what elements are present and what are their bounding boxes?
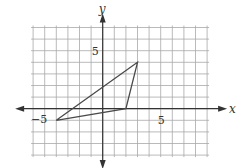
y-tick-label-5: 5 — [92, 45, 99, 58]
y-axis-label: y — [98, 2, 106, 16]
grid-lines — [31, 26, 209, 158]
coordinate-plane: y x 5 5 −5 — [0, 0, 242, 168]
x-axis-label: x — [229, 102, 236, 116]
x-tick-label-neg5: −5 — [31, 113, 47, 126]
x-tick-label-5: 5 — [158, 114, 165, 127]
triangle — [56, 62, 137, 120]
